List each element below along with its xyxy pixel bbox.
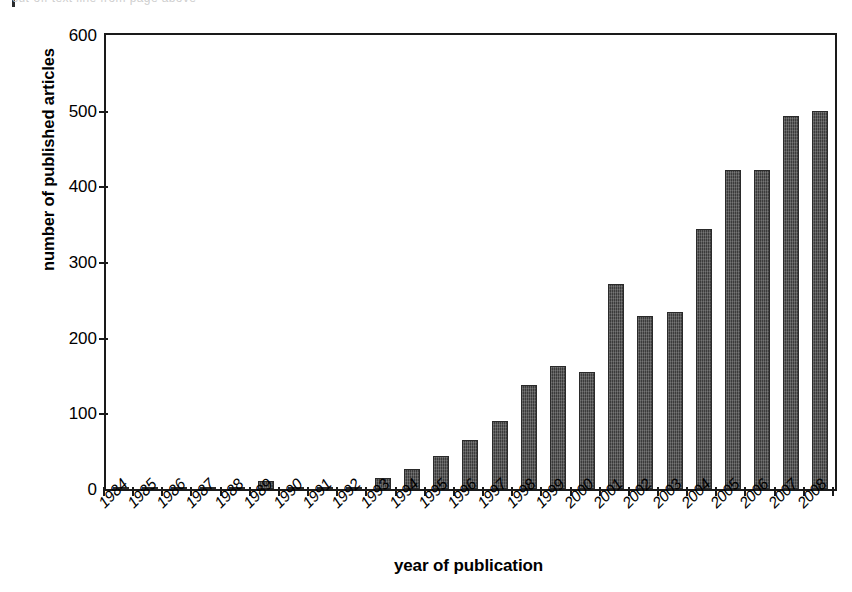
bar-slot [543,35,572,489]
bar-slot [689,35,718,489]
bar-slot [252,35,281,489]
y-tick-label: 100 [69,405,97,422]
bar [608,284,624,489]
bar-slot [164,35,193,489]
x-label-slot: 2002 [629,497,658,553]
bar [579,372,595,489]
bar-slot [368,35,397,489]
x-tick-label: 1984 [94,475,131,512]
bar-slot [631,35,660,489]
x-tick-mark-end [832,487,834,496]
bar-slot [427,35,456,489]
y-tick-label: 500 [69,102,97,119]
bar-slot [747,35,776,489]
bar-slot [398,35,427,489]
bar-chart-figure: number of published articles 60050040030… [0,0,852,592]
bar-slot [223,35,252,489]
x-label-slot: 1998 [512,497,541,553]
x-label-slot: 1985 [133,497,162,553]
bar-slot [106,35,135,489]
bar-slot [339,35,368,489]
bar-slot [777,35,806,489]
x-label-slot: 1997 [483,497,512,553]
bar-slot [310,35,339,489]
bar-slot [660,35,689,489]
bar-slot [485,35,514,489]
y-tick-label: 600 [69,27,97,44]
x-axis-title: year of publication [104,556,833,576]
bar-slot [573,35,602,489]
bar [696,229,712,489]
x-label-slot: 1984 [104,497,133,553]
bar-slot [281,35,310,489]
x-label-slot: 1991 [308,497,337,553]
bar-series [106,35,835,489]
x-label-slot: 1996 [454,497,483,553]
y-tick-label: 300 [69,254,97,271]
x-label-slot: 2005 [716,497,745,553]
plot-area: 6005004003002001000 [104,33,837,491]
x-label-slot: 1992 [337,497,366,553]
bar [667,312,683,489]
x-label-slot: 1990 [279,497,308,553]
bar-slot [718,35,747,489]
bar [812,111,828,489]
bar [725,170,741,489]
x-label-slot: 1999 [541,497,570,553]
bar [521,385,537,489]
bar-slot [135,35,164,489]
x-label-slot: 1986 [162,497,191,553]
bar-slot [806,35,835,489]
bar-slot [456,35,485,489]
bar [637,316,653,489]
y-axis-title: number of published articles [39,10,58,310]
x-label-slot: 2008 [804,497,833,553]
bar-slot [514,35,543,489]
x-label-slot: 1989 [250,497,279,553]
y-tick-label: 400 [69,178,97,195]
bar-slot [193,35,222,489]
x-axis-tick-labels: 1984198519861987198819891990199119921993… [104,497,833,553]
bar [754,170,770,489]
y-tick-label: 200 [69,329,97,346]
bar [550,366,566,489]
bar [783,116,799,489]
x-label-slot: 2003 [658,497,687,553]
x-label-slot: 2004 [687,497,716,553]
y-tick-label: 0 [88,481,97,498]
bar-slot [602,35,631,489]
